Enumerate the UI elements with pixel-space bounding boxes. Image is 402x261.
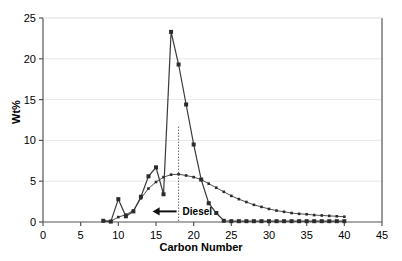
svg-text:Diesel: Diesel [183,206,213,217]
gridlines [43,18,382,181]
svg-text:0: 0 [30,216,36,228]
svg-text:10: 10 [112,229,124,241]
svg-text:40: 40 [338,229,350,241]
chart-container: Wt% Carbon Number 051015202530354045 051… [0,0,402,261]
svg-text:20: 20 [188,229,200,241]
svg-text:35: 35 [301,229,313,241]
axes [43,18,382,222]
svg-text:20: 20 [24,53,36,65]
svg-text:5: 5 [30,175,36,187]
svg-text:45: 45 [376,229,388,241]
y-tick-labels: 0510152025 [24,12,36,228]
svg-text:5: 5 [78,229,84,241]
series-broad-distribution [102,173,346,223]
svg-text:15: 15 [24,94,36,106]
plot-area: 051015202530354045 0510152025 Diesel [0,0,402,261]
x-tick-labels: 051015202530354045 [40,229,388,241]
svg-text:25: 25 [225,229,237,241]
svg-text:30: 30 [263,229,275,241]
svg-text:10: 10 [24,134,36,146]
svg-text:0: 0 [40,229,46,241]
svg-text:15: 15 [150,229,162,241]
svg-text:25: 25 [24,12,36,24]
